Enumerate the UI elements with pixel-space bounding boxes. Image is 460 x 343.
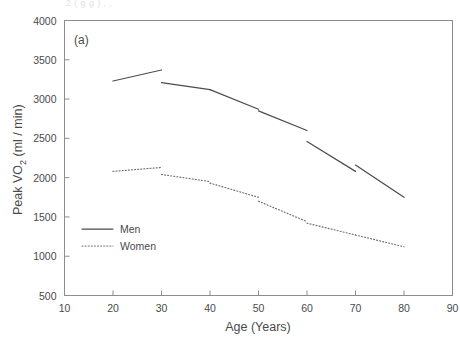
svg-text:Peak VO2 (ml / min): Peak VO2 (ml / min) (11, 104, 28, 215)
x-axis-title: Age (Years) (225, 320, 291, 334)
cut-off-caption-text: 2 ( g g ) , , (66, 0, 456, 8)
x-tick-label: 80 (398, 302, 410, 314)
y-tick-label: 1000 (33, 250, 57, 262)
y-tick-label: 2000 (33, 172, 57, 184)
y-axis-title-main: Peak VO (11, 165, 25, 215)
legend-label-men: Men (120, 223, 141, 235)
series-segment (307, 142, 356, 172)
y-tick-label: 3500 (33, 54, 57, 66)
peak-vo2-vs-age-chart: 5001000150020002500300035004000 10203040… (0, 0, 460, 343)
y-axis-title: Peak VO2 (ml / min) (11, 104, 28, 215)
series-segment (210, 183, 259, 197)
series-segment (259, 111, 308, 131)
series-segment (162, 83, 211, 90)
x-tick-label: 60 (301, 302, 313, 314)
x-tick-label: 20 (107, 302, 119, 314)
y-tick-label: 1500 (33, 211, 57, 223)
x-tick-label: 70 (350, 302, 362, 314)
x-tick-label: 30 (156, 302, 168, 314)
figure-panel-a: 2 ( g g ) , , 50010001500200025003000350… (0, 0, 460, 343)
series-segment (113, 167, 162, 171)
x-axis-ticks (65, 291, 453, 296)
series-segment (210, 90, 259, 110)
panel-label: (a) (74, 33, 89, 47)
y-axis-ticks (65, 21, 70, 296)
series-segment (259, 201, 308, 221)
y-tick-label: 4000 (33, 15, 57, 27)
series-segment (162, 175, 211, 182)
series-segment (307, 223, 356, 235)
x-tick-label: 40 (204, 302, 216, 314)
x-axis-tick-labels: 102030405060708090 (59, 302, 459, 314)
plot-frame (65, 21, 453, 296)
legend-label-women: Women (120, 240, 156, 252)
y-tick-label: 2500 (33, 132, 57, 144)
series-segment (113, 70, 162, 81)
x-tick-label: 50 (253, 302, 265, 314)
y-tick-label: 3000 (33, 93, 57, 105)
series-men (113, 70, 404, 197)
y-axis-title-units: (ml / min) (11, 104, 25, 160)
x-tick-label: 90 (447, 302, 459, 314)
series-segment (356, 165, 405, 197)
y-axis-tick-labels: 5001000150020002500300035004000 (33, 15, 57, 302)
series-women (113, 167, 404, 246)
x-tick-label: 10 (59, 302, 71, 314)
legend: Men Women (82, 223, 156, 252)
series-segment (356, 235, 405, 247)
y-tick-label: 500 (39, 290, 57, 302)
